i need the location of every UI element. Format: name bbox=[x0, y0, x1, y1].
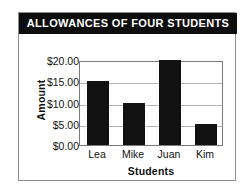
y-axis-tick-label: $5.00 bbox=[33, 120, 79, 131]
bar-mike bbox=[123, 103, 145, 146]
bar-juan bbox=[159, 60, 181, 145]
chart-card: ALLOWANCES OF FOUR STUDENTS Amount $20.0… bbox=[18, 12, 236, 181]
y-axis-tick-label: $10.00 bbox=[33, 98, 79, 109]
chart-body: Amount $20.00$15.00$10.00$5.00$0.00 LeaM… bbox=[19, 34, 237, 182]
x-axis-tick-labels: LeaMikeJuanKim bbox=[79, 149, 223, 163]
plot-inner bbox=[80, 62, 222, 145]
x-axis-tick-label: Lea bbox=[79, 149, 115, 160]
x-axis-title: Students bbox=[79, 165, 223, 177]
x-axis-tick-label: Juan bbox=[151, 149, 187, 160]
y-axis-tick-label: $0.00 bbox=[33, 141, 79, 152]
chart-title-bar: ALLOWANCES OF FOUR STUDENTS bbox=[19, 13, 237, 34]
page-title: ALLOWANCES OF FOUR STUDENTS bbox=[27, 18, 230, 29]
y-axis-tick-label: $20.00 bbox=[33, 56, 79, 67]
x-axis-tick-label: Mike bbox=[115, 149, 151, 160]
y-axis-tick-label: $15.00 bbox=[33, 77, 79, 88]
bar-lea bbox=[87, 81, 109, 145]
bar-series bbox=[80, 62, 222, 145]
plot-area bbox=[79, 61, 223, 146]
chart-page: ALLOWANCES OF FOUR STUDENTS Amount $20.0… bbox=[0, 0, 249, 191]
bar-kim bbox=[195, 124, 217, 145]
y-axis-tick-labels: $20.00$15.00$10.00$5.00$0.00 bbox=[33, 55, 79, 141]
x-axis-tick-label: Kim bbox=[187, 149, 223, 160]
